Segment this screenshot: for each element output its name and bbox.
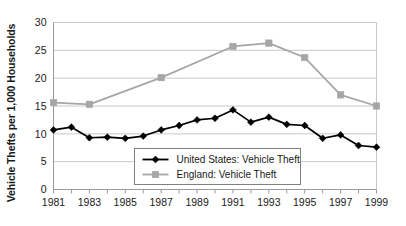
data-point-1999 xyxy=(373,103,379,109)
data-point-1995 xyxy=(302,54,308,60)
data-point-1988 xyxy=(176,122,183,129)
series-united-states xyxy=(50,106,380,150)
data-point-1981 xyxy=(50,127,57,134)
data-point-1990 xyxy=(212,115,219,122)
x-tick-label-1985: 1985 xyxy=(114,196,138,208)
legend-item-label: United States: Vehicle Theft xyxy=(177,154,300,165)
chart-plot-area: 051015202530 198119831985198719891991199… xyxy=(0,0,406,226)
data-point-1984 xyxy=(104,134,111,141)
x-tick-label-1987: 1987 xyxy=(149,196,173,208)
data-point-1994 xyxy=(283,121,290,128)
x-axis-ticks-group: 1981198319851987198919911993199519971999 xyxy=(42,190,389,208)
data-point-1983 xyxy=(86,101,92,107)
y-tick-label-25: 25 xyxy=(35,44,47,56)
data-point-1981 xyxy=(50,99,56,105)
x-tick-label-1981: 1981 xyxy=(42,196,66,208)
x-tick-label-1993: 1993 xyxy=(257,196,281,208)
x-tick-label-1995: 1995 xyxy=(293,196,317,208)
y-tick-label-5: 5 xyxy=(41,155,47,167)
y-tick-label-30: 30 xyxy=(35,16,47,28)
vehicle-theft-line-chart: Vehicle Thefts per 1,000 Households 0510… xyxy=(0,0,406,226)
data-point-1993 xyxy=(265,114,272,121)
x-tick-label-1983: 1983 xyxy=(78,196,102,208)
x-tick-label-1999: 1999 xyxy=(365,196,389,208)
legend-marker-square-icon xyxy=(152,171,158,177)
gridlines-group xyxy=(54,23,377,162)
data-point-1987 xyxy=(158,74,164,80)
y-axis-ticks-group: 051015202530 xyxy=(35,16,47,195)
chart-legend: United States: Vehicle TheftEngland: Veh… xyxy=(135,149,301,185)
data-point-1985 xyxy=(122,135,129,142)
y-tick-label-20: 20 xyxy=(35,72,47,84)
legend-item-label: England: Vehicle Theft xyxy=(177,169,277,180)
y-tick-label-15: 15 xyxy=(35,100,47,112)
data-point-1991 xyxy=(230,43,236,49)
series-line xyxy=(54,43,377,106)
data-point-1999 xyxy=(373,144,380,151)
data-point-1989 xyxy=(194,117,201,124)
x-tick-label-1997: 1997 xyxy=(329,196,353,208)
data-point-1997 xyxy=(337,92,343,98)
x-tick-label-1991: 1991 xyxy=(221,196,245,208)
data-point-1987 xyxy=(158,127,165,134)
y-tick-label-0: 0 xyxy=(41,183,47,195)
data-point-1993 xyxy=(266,40,272,46)
y-tick-label-10: 10 xyxy=(35,128,47,140)
x-tick-label-1989: 1989 xyxy=(185,196,209,208)
